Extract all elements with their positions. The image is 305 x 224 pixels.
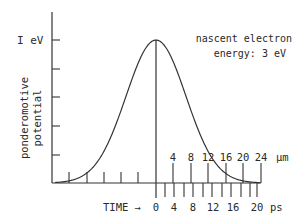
annotation-line1: nascent electron [196,33,292,44]
svg-text:12: 12 [207,201,220,213]
svg-text:4: 4 [170,151,176,163]
svg-text:16: 16 [227,201,240,213]
svg-text:0: 0 [153,201,159,213]
svg-text:24: 24 [255,151,268,163]
y-ticks [52,40,60,155]
y-top-label: I eV [17,34,44,47]
svg-text:20: 20 [237,151,250,163]
svg-text:4: 4 [171,201,177,213]
svg-text:8: 8 [190,201,196,213]
um-ticks [69,163,261,183]
ponderomotive-potential-chart: I eV ponderomotive potential nascent ele… [0,0,305,224]
svg-text:16: 16 [220,151,233,163]
annotation-line2: energy: 3 eV [214,48,286,59]
svg-text:20: 20 [251,201,264,213]
um-tick-labels: 4 8 12 16 20 24 [170,151,267,163]
ylabel-line1: ponderomotive [18,77,30,159]
ylabel-line2: potential [31,90,43,147]
ps-tick-labels: 0 4 8 12 16 20 [153,201,263,213]
svg-text:12: 12 [202,151,215,163]
ps-ticks [165,183,257,197]
svg-text:8: 8 [188,151,194,163]
time-label: TIME → [103,201,141,213]
ps-unit: ps [270,201,283,213]
um-unit: µm [276,151,289,163]
